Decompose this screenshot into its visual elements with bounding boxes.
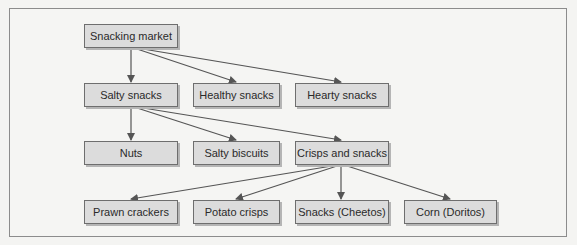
node-snacking-market: Snacking market	[84, 24, 178, 48]
node-salty-snacks: Salty snacks	[84, 83, 178, 107]
edge-salty-snacks-to-crisps-and-snacks	[137, 107, 341, 140]
node-healthy-snacks: Healthy snacks	[193, 83, 280, 107]
node-hearty-snacks: Hearty snacks	[295, 83, 389, 107]
edge-crisps-to-corn-doritos	[344, 165, 450, 199]
edge-snacking-market-to-healthy-snacks	[134, 48, 236, 82]
node-corn-doritos: Corn (Doritos)	[404, 200, 497, 224]
edge-crisps-to-potato-crisps	[236, 165, 340, 199]
edge-salty-snacks-to-salty-biscuits	[134, 107, 236, 140]
node-snacks-cheetos: Snacks (Cheetos)	[295, 200, 389, 224]
node-potato-crisps: Potato crisps	[193, 200, 280, 224]
edge-snacking-market-to-hearty-snacks	[137, 48, 341, 82]
node-prawn-crackers: Prawn crackers	[84, 200, 178, 224]
node-nuts: Nuts	[84, 141, 178, 165]
edge-crisps-to-prawn-crackers	[131, 165, 338, 199]
node-crisps-and-snacks: Crisps and snacks	[295, 141, 389, 165]
node-salty-biscuits: Salty biscuits	[193, 141, 280, 165]
